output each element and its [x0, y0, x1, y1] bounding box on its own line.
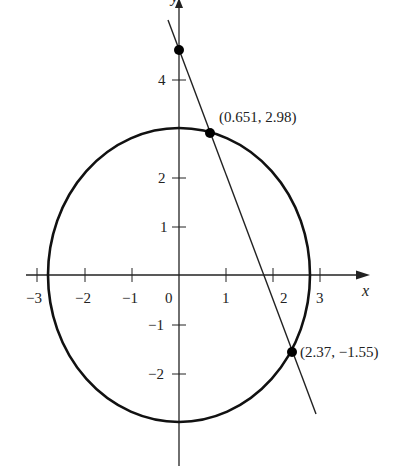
y-tick-label: −1: [148, 317, 164, 333]
x-tick-label: −3: [26, 290, 42, 306]
intersection-point-b: [287, 347, 297, 357]
circle-line-intersection-figure: −3 −2 −1 0 1 2 3 x y 4 2 1 −1 −2 (0.651,…: [0, 0, 410, 474]
x-tick-label: 3: [316, 290, 324, 306]
y-tick-label: 2: [158, 170, 166, 186]
x-axis: −3 −2 −1 0 1 2 3 x: [26, 268, 370, 306]
x-tick-label: −1: [122, 290, 138, 306]
point-a-label: (0.651, 2.98): [219, 109, 297, 126]
x-tick-label: 2: [280, 290, 288, 306]
x-axis-arrowhead: [356, 271, 370, 280]
x-tick-label: 1: [222, 290, 230, 306]
y-intercept-point: [174, 45, 184, 55]
y-tick-label: 1: [160, 219, 168, 235]
y-tick-label: −2: [148, 366, 164, 382]
point-b-label: (2.37, −1.55): [300, 344, 378, 361]
x-tick-label: −2: [75, 290, 91, 306]
x-axis-label: x: [361, 282, 369, 299]
y-tick-label: 4: [158, 72, 166, 88]
intersection-point-a: [205, 128, 215, 138]
x-tick-label: 0: [165, 290, 173, 306]
y-axis: y 4 2 1 −1 −2: [148, 0, 186, 466]
